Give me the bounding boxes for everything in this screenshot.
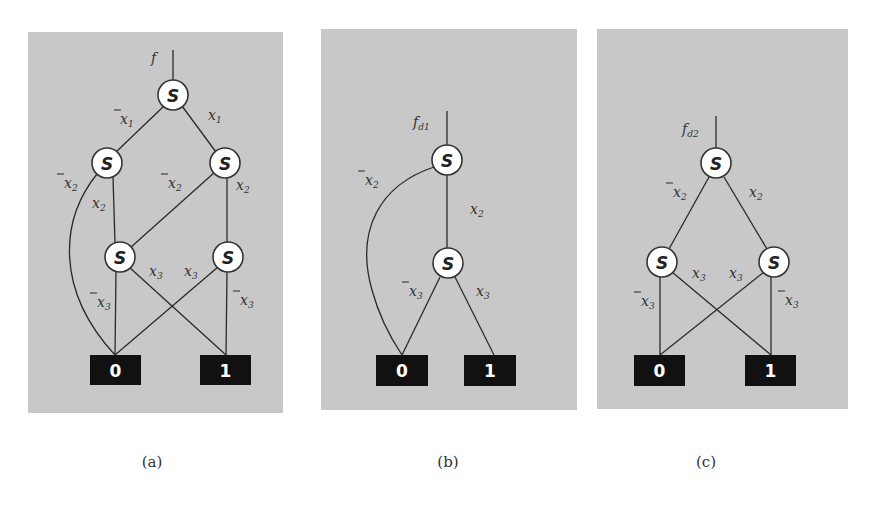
terminal-label: 0 — [396, 361, 408, 381]
terminal-a-1: 1 — [200, 355, 251, 385]
terminal-b-0: 0 — [376, 355, 428, 386]
panel-a: S S S S S 0 1 f x1 x1 — [28, 32, 283, 413]
node-b-root: S — [432, 145, 462, 175]
node-a-root: S — [158, 80, 188, 110]
node-label: S — [222, 248, 234, 268]
node-a-r2: S — [210, 148, 240, 178]
terminal-b-1: 1 — [464, 355, 516, 386]
node-b-mid: S — [433, 248, 463, 278]
caption-b: (b) — [437, 453, 458, 471]
terminal-label: 0 — [654, 361, 666, 381]
node-a-r3: S — [213, 242, 243, 272]
node-a-l2: S — [92, 148, 122, 178]
caption-a: (a) — [142, 453, 163, 471]
terminal-label: 1 — [484, 361, 496, 381]
panel-b-background — [321, 29, 577, 410]
node-label: S — [219, 154, 231, 174]
panel-c: S S S 0 1 fd2 x2 x2 x3 x3 x3 x3 — [597, 29, 848, 409]
terminal-a-0: 0 — [90, 355, 141, 385]
terminal-c-1: 1 — [745, 355, 796, 386]
caption-c: (c) — [696, 453, 716, 471]
node-label: S — [768, 253, 780, 273]
terminal-label: 1 — [765, 361, 777, 381]
node-label: S — [101, 154, 113, 174]
terminal-label: 0 — [110, 361, 122, 381]
node-label: S — [710, 154, 722, 174]
node-a-l3: S — [105, 242, 135, 272]
panel-c-background — [597, 29, 848, 409]
node-label: S — [441, 151, 453, 171]
node-label: S — [114, 248, 126, 268]
terminal-c-0: 0 — [634, 355, 685, 386]
bdd-figure: S S S S S 0 1 f x1 x1 — [0, 0, 874, 512]
node-label: S — [167, 86, 179, 106]
node-c-right: S — [759, 247, 789, 277]
node-label: S — [442, 254, 454, 274]
node-c-root: S — [701, 148, 731, 178]
node-c-left: S — [647, 247, 677, 277]
terminal-label: 1 — [220, 361, 232, 381]
panel-b: S S 0 1 fd1 x2 x2 x3 x3 — [321, 29, 577, 410]
node-label: S — [656, 253, 668, 273]
